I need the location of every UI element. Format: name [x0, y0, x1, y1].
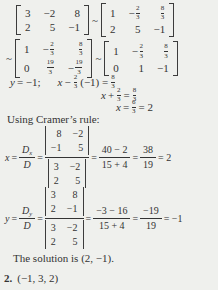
- fraction-bar: [99, 157, 131, 158]
- matrix-cell: −2: [44, 7, 56, 19]
- matrix-cell: 1: [113, 45, 119, 57]
- cramer-heading: Using Cramer’s rule:: [7, 113, 100, 125]
- det-cell: 3: [51, 222, 56, 234]
- matrix-row-2: ~ 1 − 2 3 8 3: [3, 39, 178, 78]
- numerator: 2: [50, 41, 54, 48]
- equals-sign: =: [11, 152, 17, 163]
- fraction-numerator: 40 − 2: [99, 144, 131, 155]
- matrix-cell: 0: [113, 62, 119, 74]
- matrix-cell: 1: [139, 62, 145, 74]
- fraction-bar: [19, 157, 35, 158]
- fraction-numerator: 38: [140, 144, 156, 155]
- denominator: 3: [136, 14, 140, 21]
- denominator: 3: [74, 83, 78, 90]
- matrix-1: 3 −2 8 2 5 −1: [16, 5, 89, 35]
- denominator: 3: [161, 14, 165, 21]
- matrix-cell: 3: [25, 7, 31, 19]
- backsub-line-1: y = −1; x − 2 3 (−1) = 8 3: [10, 74, 116, 90]
- cramer-y-line: y = Dy D = 3 8 2 −1 3 −2 2 5 = −3 − 16: [5, 187, 182, 249]
- denominator: 3: [164, 53, 168, 60]
- bracket-right: [173, 41, 178, 75]
- fraction-numerator: −3 − 16: [93, 205, 130, 216]
- matrix-4-body: 1 − 2 3 8 3 0 1: [109, 41, 172, 75]
- numerator: 8: [79, 41, 83, 48]
- equals-sign: =: [132, 213, 138, 224]
- equation-y: y = −1;: [10, 76, 41, 88]
- numerator: 8: [164, 43, 168, 50]
- subscript-x: x: [29, 148, 32, 155]
- fraction-denominator: 15 + 4: [99, 159, 131, 170]
- numerator: 8: [111, 74, 115, 81]
- det-cell: 5: [73, 236, 78, 248]
- fraction-denominator: D: [21, 220, 34, 231]
- determinant-numerator: 3 8 2 −1: [45, 187, 84, 216]
- fraction-numerator: Dx: [19, 144, 35, 156]
- denominator: 3: [79, 50, 83, 57]
- cramer-x-line: x = Dx D = 8 −2 −1 5 3 −2 2 5 = 40 − 2: [5, 126, 171, 188]
- numerator: 2: [136, 5, 140, 12]
- fraction-denominator: D: [21, 159, 34, 170]
- numerator: 8: [133, 87, 137, 94]
- textbook-page: 3 −2 8 2 5 −1 ~ 1 − 2 3: [0, 0, 218, 290]
- matrix-4: 1 − 2 3 8 3 0 1: [104, 41, 177, 75]
- equals-sign: =: [123, 101, 129, 113]
- fraction-numerator: −19: [140, 205, 162, 216]
- exercise-2-answer: 2. (−1, 3, 2): [4, 272, 58, 284]
- fraction-denominator: 15 + 4: [96, 220, 128, 231]
- matrix-cell: 8: [74, 7, 80, 19]
- fraction-bar: [93, 218, 130, 219]
- minus-sign: −: [42, 43, 48, 55]
- determinant-denominator: 3 −2 2 5: [48, 159, 87, 188]
- solution-text: The solution is (2, −1).: [13, 252, 114, 264]
- matrix-2-body: 1 − 2 3 8 3 2 5: [106, 3, 169, 37]
- matrix-cell: − 2 3: [42, 41, 54, 57]
- fraction-bar: [19, 218, 35, 219]
- det-cell: 3: [54, 161, 59, 173]
- matrix-row-1: 3 −2 8 2 5 −1 ~ 1 − 2 3: [16, 3, 174, 37]
- determinant-quotient: 3 8 2 −1 3 −2 2 5: [45, 187, 84, 249]
- determinant-quotient: 8 −2 −1 5 3 −2 2 5: [45, 126, 89, 188]
- operator: +: [108, 89, 114, 101]
- arithmetic-fraction: −3 − 16 15 + 4: [93, 205, 130, 231]
- determinant-denominator: 3 −2 2 5: [45, 220, 84, 249]
- fraction: 6 3: [132, 99, 136, 115]
- det-cell: 5: [78, 142, 83, 154]
- det-cell: −1: [67, 203, 78, 215]
- denominator: 3: [50, 50, 54, 57]
- matrix-cell: − 2 3: [128, 5, 140, 21]
- det-cell: 2: [54, 175, 59, 187]
- fraction: 2 3: [136, 5, 140, 21]
- equals-sign: =: [86, 213, 92, 224]
- fraction: 2 3: [140, 43, 144, 59]
- fraction-bar: [45, 218, 84, 219]
- fraction-numerator: Dy: [19, 205, 35, 217]
- fraction-denominator: 19: [143, 220, 159, 231]
- numerator: 2: [140, 43, 144, 50]
- equals-sign: =: [132, 152, 138, 163]
- matrix-cell: 1: [24, 43, 30, 55]
- matrix-cell: −1: [68, 21, 80, 33]
- numerator: 19: [75, 59, 82, 66]
- equals-sign: =: [11, 213, 17, 224]
- heading-text: Using Cramer’s rule:: [7, 113, 100, 125]
- det-cell: 2: [51, 236, 56, 248]
- det-cell: −1: [51, 142, 62, 154]
- var-x: x: [5, 152, 9, 163]
- denominator: 3: [132, 108, 136, 115]
- numerator: 2: [74, 74, 78, 81]
- fraction-denominator: 19: [140, 159, 156, 170]
- det-cell: 8: [57, 128, 62, 140]
- dy-over-d-fraction: Dy D: [19, 205, 35, 232]
- row-equivalence-tilde: ~: [3, 52, 15, 64]
- result-fraction: 38 19: [140, 144, 156, 170]
- matrix-cell: 8 3: [163, 43, 169, 59]
- matrix-cell: − 2 3: [132, 43, 144, 59]
- fraction-bar: [45, 157, 89, 158]
- solution-line: The solution is (2, −1).: [13, 252, 114, 264]
- matrix-cell: 5: [50, 21, 56, 33]
- denominator: 3: [140, 53, 144, 60]
- subscript-y: y: [29, 209, 32, 216]
- matrix-cell: 2: [110, 23, 116, 35]
- row-equivalence-tilde: ~: [92, 52, 104, 64]
- bracket-right: [169, 3, 174, 37]
